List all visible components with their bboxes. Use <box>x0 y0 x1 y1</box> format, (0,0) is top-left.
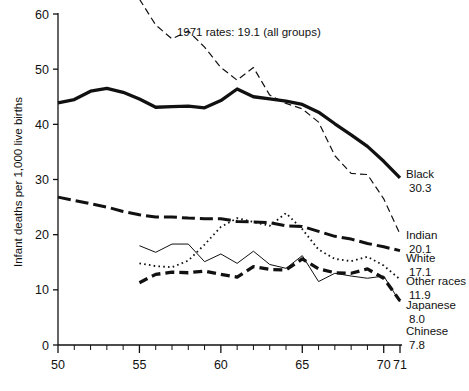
chart-figure: Infant deaths per 1,000 live births 0102… <box>0 0 469 391</box>
series-value: 30.3 <box>409 182 431 194</box>
x-axis-ticks: 505560657071 <box>51 345 407 372</box>
x-tick-label: 60 <box>214 358 228 372</box>
series-name: Black <box>406 168 434 180</box>
y-tick-label: 60 <box>35 8 49 22</box>
y-tick-label: 40 <box>35 118 49 132</box>
series-end-label-other-races: Other races11.9 <box>406 275 466 301</box>
series-name: Japanese <box>406 299 456 311</box>
y-tick-label: 0 <box>42 339 49 353</box>
series-name: Indian <box>406 229 437 241</box>
chart-axes <box>58 13 402 345</box>
y-axis-title-text: Infant deaths per 1,000 live births <box>12 97 24 267</box>
series-name: Chinese <box>406 325 448 337</box>
x-tick-label: 55 <box>132 358 146 372</box>
y-tick-label: 50 <box>35 63 49 77</box>
chart-annotations: 1971 rates: 19.1 (all groups) <box>177 26 321 38</box>
series-end-label-chinese: Chinese7.8 <box>406 325 448 351</box>
chart-annotation-text: 1971 rates: 19.1 (all groups) <box>177 26 321 38</box>
series-value: 7.8 <box>409 339 425 351</box>
plot-series-group <box>58 0 400 302</box>
series-end-labels: Black30.3Indian20.1White17.1Other races1… <box>406 168 466 351</box>
x-tick-label: 70 <box>377 358 391 372</box>
series-line-white <box>58 197 400 251</box>
series-line-chinese <box>139 244 400 302</box>
y-axis-title: Infant deaths per 1,000 live births <box>12 97 24 267</box>
x-tick-label: 50 <box>51 358 65 372</box>
series-line-black <box>58 88 400 177</box>
y-tick-label: 20 <box>35 228 49 242</box>
infant-mortality-line-chart: Infant deaths per 1,000 live births 0102… <box>0 0 469 391</box>
y-tick-label: 30 <box>35 173 49 187</box>
y-tick-label: 10 <box>35 283 49 297</box>
x-tick-label: 71 <box>393 358 407 372</box>
y-axis-ticks: 0102030405060 <box>35 8 58 353</box>
x-tick-label: 65 <box>295 358 309 372</box>
series-end-label-black: Black30.3 <box>406 168 434 194</box>
series-line-other-races <box>139 213 400 279</box>
series-name: White <box>406 252 435 264</box>
series-end-label-japanese: Japanese8.0 <box>406 299 456 325</box>
series-value: 8.0 <box>409 313 425 325</box>
series-name: Other races <box>406 275 466 287</box>
